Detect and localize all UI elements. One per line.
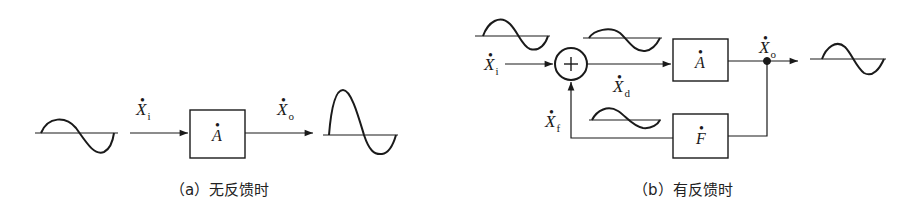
label-subscript: o [288, 110, 294, 122]
output-signal-label-a: •Xo [277, 101, 294, 118]
feedback-signal-label: •Xf [545, 113, 560, 130]
input-signal-label-a: •Xi [136, 101, 150, 118]
diagram-b [475, 20, 886, 158]
caption-b: （b）有反馈时 [633, 178, 733, 199]
input-waveform-a [35, 120, 118, 153]
label-subscript: d [624, 87, 630, 99]
dot-accent: • [617, 71, 622, 85]
feedback-path-right [728, 61, 767, 136]
feedback-block-label: •F [696, 131, 706, 147]
output-waveform-b [810, 44, 886, 74]
label-subscript: i [495, 65, 498, 77]
label-subscript: o [770, 48, 776, 60]
input-signal-label-b: •Xi [484, 56, 498, 73]
difference-waveform [583, 29, 662, 51]
label-subscript: f [556, 122, 560, 134]
amplifier-label-b: •A [695, 55, 705, 71]
dot-accent: • [215, 119, 220, 133]
label-subscript: i [147, 110, 150, 122]
difference-signal-label: •Xd [613, 78, 630, 95]
dot-accent: • [281, 94, 286, 108]
dot-accent: • [699, 122, 704, 136]
output-waveform-a [323, 90, 398, 154]
dot-accent: • [549, 106, 554, 120]
output-signal-label-b: •Xo [759, 39, 776, 56]
dot-accent: • [698, 46, 703, 60]
dot-accent: • [140, 94, 145, 108]
input-waveform-b [475, 20, 550, 50]
amplifier-label-a: •A [212, 128, 222, 144]
feedback-waveform [589, 108, 661, 128]
dot-accent: • [763, 32, 768, 46]
dot-accent: • [488, 49, 493, 63]
caption-a: （a）无反馈时 [170, 178, 269, 199]
